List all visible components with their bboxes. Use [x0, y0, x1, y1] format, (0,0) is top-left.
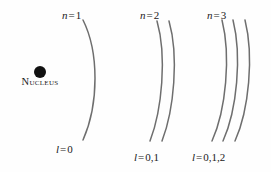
- orbital-label-n3: l=0,1,2: [192, 152, 225, 163]
- quantum-number-symbol-n3: n: [207, 9, 213, 21]
- quantum-number-value-n2: 2: [154, 9, 160, 21]
- quantum-number-symbol-n1: n: [62, 9, 68, 21]
- electron-shell-diagram: Nucleus n=1 l=0 n=2 l=0,1 n=3 l=0,1,2: [0, 0, 271, 172]
- equals-sign-n1: =: [68, 9, 76, 21]
- shell-group-n2: [150, 21, 174, 141]
- orbital-value-n3: 0,1,2: [203, 151, 225, 163]
- shell-arc-n2-1: [162, 21, 174, 141]
- equals-sign-n2: =: [146, 9, 154, 21]
- quantum-number-symbol-n2: n: [140, 9, 146, 21]
- shell-arc-n1-0: [83, 20, 95, 140]
- shell-arc-n3-0: [212, 20, 227, 141]
- orbital-label-n1: l=0: [56, 144, 73, 155]
- orbital-value-n1: 0: [67, 143, 73, 155]
- shell-group-n1: [83, 20, 95, 140]
- nucleus-label: Nucleus: [8, 76, 72, 87]
- shell-label-n2: n=2: [140, 10, 159, 21]
- shell-arc-n2-0: [150, 21, 162, 141]
- shell-label-n1: n=1: [62, 10, 81, 21]
- quantum-number-value-n1: 1: [76, 9, 82, 21]
- equals-sign-n3: =: [213, 9, 221, 21]
- shell-label-n3: n=3: [207, 10, 226, 21]
- orbital-label-n2: l=0,1: [134, 152, 159, 163]
- quantum-number-value-n3: 3: [221, 9, 227, 21]
- shell-group-n3: [212, 20, 250, 141]
- orbital-value-n2: 0,1: [145, 151, 159, 163]
